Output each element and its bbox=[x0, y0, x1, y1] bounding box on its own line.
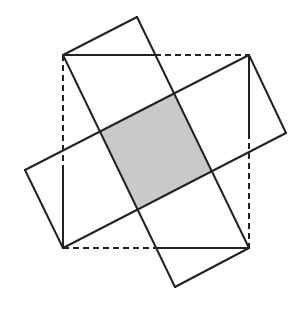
geometry-diagram bbox=[0, 0, 304, 310]
shaded-inner-square bbox=[100, 94, 212, 208]
solid-edge-3 bbox=[175, 248, 249, 287]
solid-edge-5 bbox=[25, 170, 63, 248]
solid-edge-7 bbox=[249, 55, 286, 133]
solid-edge-0 bbox=[63, 17, 137, 55]
